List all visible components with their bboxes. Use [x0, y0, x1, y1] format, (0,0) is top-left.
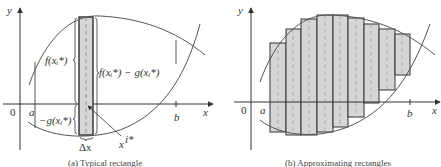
- rectangle-9: [395, 34, 410, 75]
- f-xi-label: f(xᵢ*): [45, 54, 68, 67]
- caption-a: (a) Typical rectangle: [68, 158, 142, 167]
- delta-x-label: Δx: [79, 141, 92, 153]
- xi-sub-label: i*: [125, 133, 134, 145]
- origin-label: 0: [241, 104, 247, 116]
- y-axis-label: y: [237, 4, 243, 16]
- panel-a-typical-rectangle: y x 0 a b f(xᵢ*) f(xᵢ*) − g(xᵢ*) −g(xᵢ*)…: [3, 4, 213, 167]
- caption-b: (b) Approximating rectangles: [285, 158, 391, 167]
- rectangle-5: [333, 15, 348, 127]
- panel-b-approximating-rectangles: y x 0 a b (b) Approximating rectangles: [234, 4, 440, 167]
- brace-neg-g: [73, 105, 77, 134]
- xi-label: x: [118, 138, 124, 150]
- y-axis-label: y: [6, 4, 12, 16]
- a-label: a: [260, 104, 266, 116]
- x-axis-label: x: [431, 104, 437, 116]
- b-label: b: [407, 107, 413, 119]
- origin-label: 0: [10, 106, 16, 118]
- x-axis-label: x: [202, 106, 208, 118]
- rectangle-2: [286, 29, 301, 135]
- a-label: a: [29, 106, 35, 118]
- brace-f: [73, 18, 77, 103]
- f-minus-g-label: f(xᵢ*) − g(xᵢ*): [99, 66, 160, 79]
- neg-g-label: −g(xᵢ*): [39, 114, 72, 127]
- rectangle-7: [364, 24, 379, 103]
- b-label: b: [174, 111, 180, 123]
